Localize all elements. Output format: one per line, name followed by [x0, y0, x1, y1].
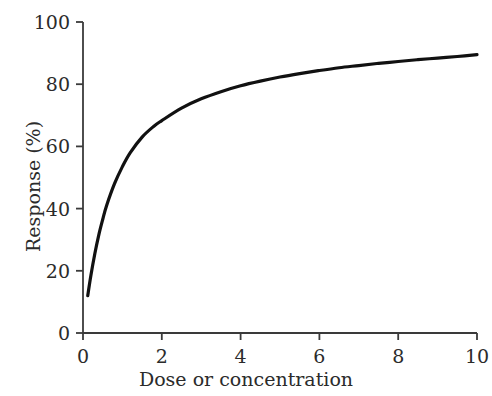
axes-group: [83, 22, 477, 333]
data-curve: [88, 55, 477, 296]
plot-area: [0, 0, 492, 396]
x-axis-tick-label: 4: [235, 347, 247, 366]
y-axis-tick-label: 0: [0, 324, 70, 343]
x-axis-title: Dose or concentration: [0, 370, 492, 389]
x-axis-tick-label: 6: [313, 347, 325, 366]
y-axis-tick-label: 100: [0, 13, 70, 32]
x-axis-tick-label: 2: [156, 347, 168, 366]
x-axis-tick-label: 10: [465, 347, 489, 366]
x-axis-tick-label: 0: [77, 347, 89, 366]
y-axis-title: Response (%): [24, 121, 43, 252]
ticks-group: [76, 22, 477, 340]
y-axis-tick-label: 20: [0, 261, 70, 280]
data-series-group: [88, 55, 477, 296]
y-axis-tick-label: 80: [0, 75, 70, 94]
x-axis-tick-label: 8: [392, 347, 404, 366]
chart-figure: 020406080100 0246810 Dose or concentrati…: [0, 0, 492, 396]
